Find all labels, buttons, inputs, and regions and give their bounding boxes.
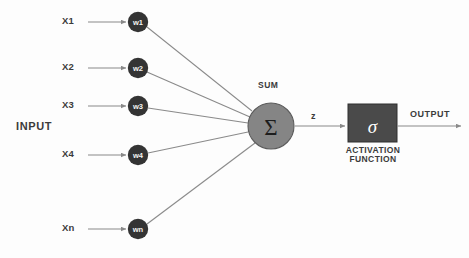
sum-caption: SUM xyxy=(258,81,278,90)
input-label-x1: X1 xyxy=(62,16,74,26)
weight-line-w3 xyxy=(148,108,248,123)
input-label-x2: X2 xyxy=(62,62,74,72)
activation-function-caption: ACTIVATION FUNCTION xyxy=(338,146,408,164)
input-label-x4: X4 xyxy=(62,149,74,159)
weight-node-label-w4: w4 xyxy=(132,151,144,160)
sum-node-symbol: Σ xyxy=(264,115,277,140)
weight-to-sum-lines xyxy=(147,27,255,224)
weight-node-label-w1: w1 xyxy=(132,18,143,27)
input-label-xn: Xn xyxy=(62,223,75,233)
weight-line-w4 xyxy=(148,132,248,153)
weight-node-label-wn: wn xyxy=(132,225,144,234)
intermediate-signal-label: z xyxy=(311,112,316,122)
weight-node-label-w2: w2 xyxy=(132,64,143,73)
weight-line-wn xyxy=(147,143,255,224)
input-section-label: INPUT xyxy=(16,121,52,133)
weight-node-label-w3: w3 xyxy=(132,102,143,111)
weight-nodes: w1 w2 w3 w4 wn xyxy=(128,12,148,239)
output-label: OUTPUT xyxy=(410,110,450,120)
weight-line-w1 xyxy=(147,27,252,111)
activation-function-symbol: σ xyxy=(368,116,378,137)
diagram-canvas: w1 w2 w3 w4 wn Σ σ xyxy=(0,0,469,258)
activation-caption-line-2: FUNCTION xyxy=(338,155,408,164)
input-label-x3: X3 xyxy=(62,100,74,110)
input-connector-lines xyxy=(88,22,126,229)
neuron-diagram: w1 w2 w3 w4 wn Σ σ INPUT X1 X2 X3 X4 Xn … xyxy=(0,0,469,258)
